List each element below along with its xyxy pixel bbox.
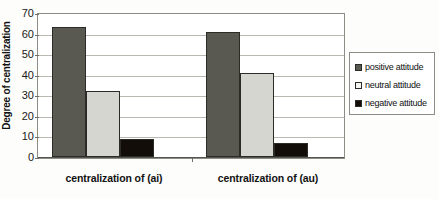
y-tick-mark: [35, 137, 39, 138]
bar[interactable]: [86, 91, 120, 157]
y-tick-label: 0: [12, 152, 34, 163]
legend-swatch-icon: [355, 64, 362, 71]
bar-chart: Degree of centralization 706050403020100…: [0, 0, 439, 199]
y-tick-mark: [35, 55, 39, 56]
y-tick-mark: [35, 96, 39, 97]
x-axis-baseline: [38, 157, 344, 158]
y-tick-label: 40: [12, 70, 34, 81]
bar-group: [206, 13, 308, 157]
plot-area: [37, 13, 345, 159]
x-axis-category-label: centralization of (ai): [37, 172, 191, 184]
category-divider-tick: [192, 158, 193, 162]
y-tick-label: 50: [12, 49, 34, 60]
y-tick-label: 20: [12, 111, 34, 122]
legend-label: neutral attitude: [365, 80, 421, 90]
y-tick-label: 30: [12, 90, 34, 101]
legend-label: positive attitude: [365, 62, 423, 72]
y-tick-mark: [35, 158, 39, 159]
bar[interactable]: [206, 32, 240, 157]
legend: positive attitudeneutral attitudenegativ…: [349, 52, 435, 115]
legend-swatch-icon: [355, 100, 362, 107]
y-tick-label: 70: [12, 8, 34, 19]
bar[interactable]: [52, 27, 86, 157]
bar[interactable]: [240, 73, 274, 157]
y-tick-mark: [35, 76, 39, 77]
y-tick-label: 60: [12, 29, 34, 40]
bar[interactable]: [274, 143, 308, 157]
x-axis-category-label: centralization of (au): [191, 172, 345, 184]
bar-group: [52, 13, 154, 157]
legend-item[interactable]: negative attitude: [355, 94, 431, 112]
y-tick-mark: [35, 14, 39, 15]
legend-item[interactable]: neutral attitude: [355, 76, 431, 94]
legend-label: negative attitude: [365, 98, 427, 108]
legend-swatch-icon: [355, 82, 362, 89]
legend-item[interactable]: positive attitude: [355, 58, 431, 76]
y-tick-mark: [35, 35, 39, 36]
bar[interactable]: [120, 139, 154, 158]
y-axis-tick-labels: 706050403020100: [10, 0, 34, 199]
y-tick-mark: [35, 117, 39, 118]
y-tick-label: 10: [12, 131, 34, 142]
